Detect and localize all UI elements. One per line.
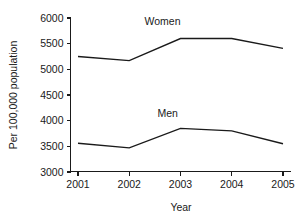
x-tick-label: 2002 [118, 178, 142, 190]
series-label-group: WomenMen [145, 15, 181, 119]
y-tick-group: 6000550050004500400035003000 [40, 12, 70, 178]
x-tick-label: 2001 [66, 178, 90, 190]
x-tick-label: 2005 [271, 178, 295, 190]
y-tick-label: 5000 [40, 63, 64, 75]
y-axis-title: Per 100,000 population [7, 41, 19, 150]
y-tick-label: 3000 [40, 166, 64, 178]
line-chart: 6000550050004500400035003000 20012002200… [0, 0, 301, 219]
y-tick-label: 4000 [40, 114, 64, 126]
x-tick-label: 2004 [220, 178, 244, 190]
y-tick-label: 3500 [40, 140, 64, 152]
x-axis: 20012002200320042005 [66, 172, 295, 191]
series-label-men: Men [157, 107, 178, 119]
series-line-men [78, 128, 283, 148]
y-tick-label: 5500 [40, 37, 64, 49]
series-label-women: Women [145, 15, 181, 27]
y-axis: 6000550050004500400035003000 [40, 12, 70, 178]
series-group [78, 39, 283, 148]
x-tick-group: 20012002200320042005 [66, 172, 295, 190]
y-tick-label: 4500 [40, 89, 64, 101]
series-line-women [78, 39, 283, 61]
y-tick-label: 6000 [40, 12, 64, 24]
x-tick-label: 2003 [169, 178, 193, 190]
x-axis-title: Year [170, 201, 192, 213]
chart-canvas: 6000550050004500400035003000 20012002200… [0, 0, 301, 219]
